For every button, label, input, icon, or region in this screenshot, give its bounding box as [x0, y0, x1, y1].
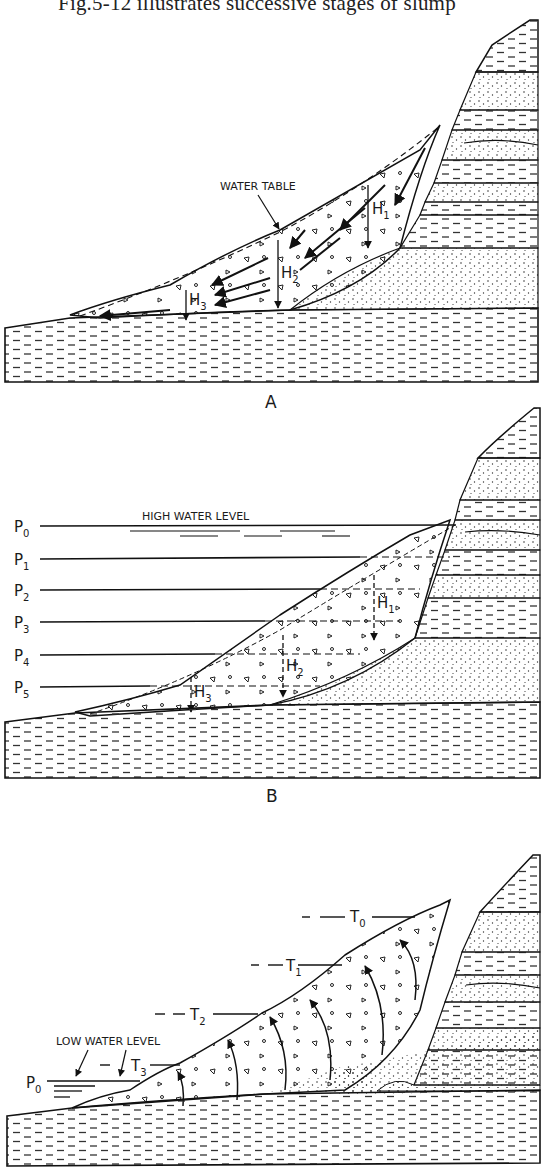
water-table-pointer — [258, 195, 279, 229]
panel-b-ground-shale — [5, 702, 540, 778]
low-water-pointer-right — [120, 1050, 126, 1076]
high-water-level-label: HIGH WATER LEVEL — [142, 510, 250, 523]
panel-a: WATER TABLE H1 H2 H3 A — [5, 20, 538, 412]
panel-a-label: A — [265, 392, 277, 412]
svg-text:P5: P5 — [14, 679, 29, 700]
svg-text:P3: P3 — [14, 614, 29, 635]
terrace-t3-label: T3 — [130, 1057, 147, 1078]
level-p2-line — [40, 589, 320, 590]
low-water-level-label: LOW WATER LEVEL — [56, 1035, 161, 1048]
panel-c: LOW WATER LEVEL P0 T0 T1 T2 T3 — [7, 855, 540, 1166]
terrace-t1-label: T1 — [285, 957, 302, 978]
panel-c-p0-label: P0 — [26, 1074, 41, 1095]
panel-b-level-labels: P0 P1 P2 P3 P4 P5 — [14, 518, 29, 700]
level-p3-line — [40, 621, 265, 622]
low-water-pointer-left — [76, 1050, 88, 1076]
panel-b-label: B — [266, 786, 278, 806]
figure-slump-stages: WATER TABLE H1 H2 H3 A — [0, 0, 552, 1173]
svg-text:P4: P4 — [14, 647, 29, 668]
level-p4-line — [40, 654, 215, 655]
panel-b: HIGH WATER LEVEL P0 P1 P2 P3 P4 P5 H1 H2… — [5, 408, 540, 806]
level-p1-line — [40, 557, 360, 559]
terrace-t0-label: T0 — [349, 908, 366, 929]
water-table-label: WATER TABLE — [220, 180, 296, 193]
svg-text:P2: P2 — [14, 582, 29, 603]
level-p0-line — [40, 525, 456, 526]
svg-text:P1: P1 — [14, 551, 29, 572]
level-p5-line — [40, 686, 150, 687]
panel-b-water-ripples — [130, 531, 350, 536]
terrace-t2-label: T2 — [189, 1006, 206, 1027]
panel-a-ground-shale — [5, 308, 538, 382]
svg-text:P0: P0 — [14, 518, 29, 539]
